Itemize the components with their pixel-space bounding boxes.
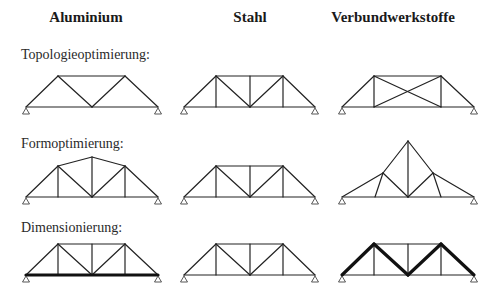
support-triangle-icon bbox=[181, 198, 188, 204]
support-triangle-icon bbox=[312, 108, 319, 114]
truss-member-thick bbox=[441, 244, 474, 275]
truss-member bbox=[184, 76, 216, 107]
truss-member-thick bbox=[342, 244, 374, 275]
truss-member bbox=[92, 157, 125, 166]
truss-member bbox=[125, 76, 158, 107]
support-triangle-icon bbox=[471, 108, 478, 114]
truss-member bbox=[216, 166, 250, 197]
truss-member bbox=[26, 166, 58, 197]
support-triangle-icon bbox=[181, 276, 188, 282]
truss-shape-steel bbox=[181, 166, 319, 204]
truss-diagram bbox=[0, 0, 501, 296]
truss-member bbox=[92, 76, 125, 107]
truss-member bbox=[58, 157, 92, 166]
truss-member bbox=[250, 244, 283, 275]
truss-topology-aluminium bbox=[23, 76, 162, 114]
truss-sizing-composite bbox=[339, 244, 478, 282]
support-triangle-icon bbox=[339, 198, 346, 204]
truss-member bbox=[342, 173, 383, 197]
support-triangle-icon bbox=[155, 198, 162, 204]
truss-sizing-steel bbox=[181, 244, 319, 282]
support-triangle-icon bbox=[471, 198, 478, 204]
support-triangle-icon bbox=[312, 198, 319, 204]
truss-member bbox=[184, 244, 216, 275]
truss-shape-aluminium bbox=[23, 157, 162, 204]
support-triangle-icon bbox=[181, 108, 188, 114]
truss-member bbox=[184, 166, 216, 197]
truss-member bbox=[383, 173, 408, 197]
support-triangle-icon bbox=[23, 198, 30, 204]
truss-member bbox=[283, 166, 315, 197]
truss-member bbox=[216, 76, 250, 107]
support-triangle-icon bbox=[23, 276, 30, 282]
support-triangle-icon bbox=[155, 276, 162, 282]
truss-member bbox=[58, 166, 92, 197]
truss-member bbox=[26, 244, 58, 275]
truss-member bbox=[383, 141, 408, 173]
support-triangle-icon bbox=[471, 276, 478, 282]
truss-member bbox=[250, 76, 283, 107]
truss-member bbox=[441, 76, 474, 107]
truss-member bbox=[408, 141, 433, 173]
truss-topology-steel bbox=[181, 76, 319, 114]
support-triangle-icon bbox=[339, 108, 346, 114]
truss-member bbox=[58, 76, 92, 107]
truss-topology-composite bbox=[339, 76, 478, 114]
support-triangle-icon bbox=[23, 108, 30, 114]
truss-shape-composite bbox=[339, 141, 478, 204]
truss-member bbox=[433, 173, 474, 197]
support-triangle-icon bbox=[339, 276, 346, 282]
truss-member bbox=[216, 244, 250, 275]
truss-member bbox=[408, 173, 433, 197]
support-triangle-icon bbox=[312, 276, 319, 282]
truss-member bbox=[26, 76, 58, 107]
truss-member bbox=[250, 166, 283, 197]
truss-member bbox=[342, 76, 374, 107]
truss-sizing-aluminium bbox=[23, 244, 162, 282]
truss-member bbox=[125, 244, 158, 275]
truss-member bbox=[92, 244, 125, 275]
truss-member bbox=[283, 76, 315, 107]
truss-member bbox=[92, 166, 125, 197]
truss-member-thick bbox=[408, 244, 441, 275]
truss-member-thick bbox=[374, 244, 408, 275]
truss-member bbox=[283, 244, 315, 275]
truss-member bbox=[125, 166, 158, 197]
support-triangle-icon bbox=[155, 108, 162, 114]
truss-member bbox=[58, 244, 92, 275]
